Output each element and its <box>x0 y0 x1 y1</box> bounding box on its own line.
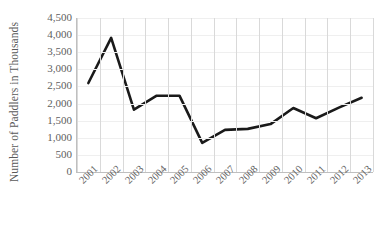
x-axis-tick-label: 2001 <box>77 163 100 186</box>
x-axis-tick-label: 2006 <box>191 163 214 186</box>
x-axis-tick-label: 2002 <box>100 163 123 186</box>
x-axis-tick-label: 2005 <box>168 163 191 186</box>
x-axis-tick-label: 2011 <box>305 163 327 185</box>
x-axis-tick-label: 2004 <box>146 163 169 186</box>
x-axis-tick-label: 2012 <box>328 163 351 186</box>
x-axis-tick-label: 2003 <box>123 163 146 186</box>
x-axis-tick-label: 2010 <box>282 163 305 186</box>
x-axis-tick-label: 2009 <box>260 163 283 186</box>
line-chart: Number of Paddlers in Thousands 05001,00… <box>0 0 387 227</box>
x-axis-tick-label: 2013 <box>351 163 374 186</box>
x-axis-tick-label: 2008 <box>237 163 260 186</box>
x-axis-tick-labels: 2001200220032004200520062007200820092010… <box>0 0 387 227</box>
x-axis-tick-label: 2007 <box>214 163 237 186</box>
